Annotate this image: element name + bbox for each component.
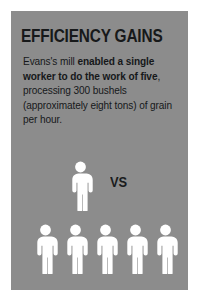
person-icon [68,161,93,211]
body-run-1: Evans's mill [23,56,77,67]
comparison-before-row: VS [11,161,188,213]
comparison-after-row [11,224,188,276]
body-paragraph: Evans's mill enabled a single worker to … [23,55,174,128]
page-title: EFFICIENCY GAINS [21,27,162,45]
person-icon [93,224,118,274]
person-icon [153,224,178,274]
infographic-card: EFFICIENCY GAINS Evans's mill enabled a … [11,11,188,290]
person-icon [123,224,148,274]
person-icon [63,224,88,274]
infographic-root: EFFICIENCY GAINS Evans's mill enabled a … [0,0,199,302]
person-icon [33,224,58,274]
vs-label: VS [110,174,127,189]
